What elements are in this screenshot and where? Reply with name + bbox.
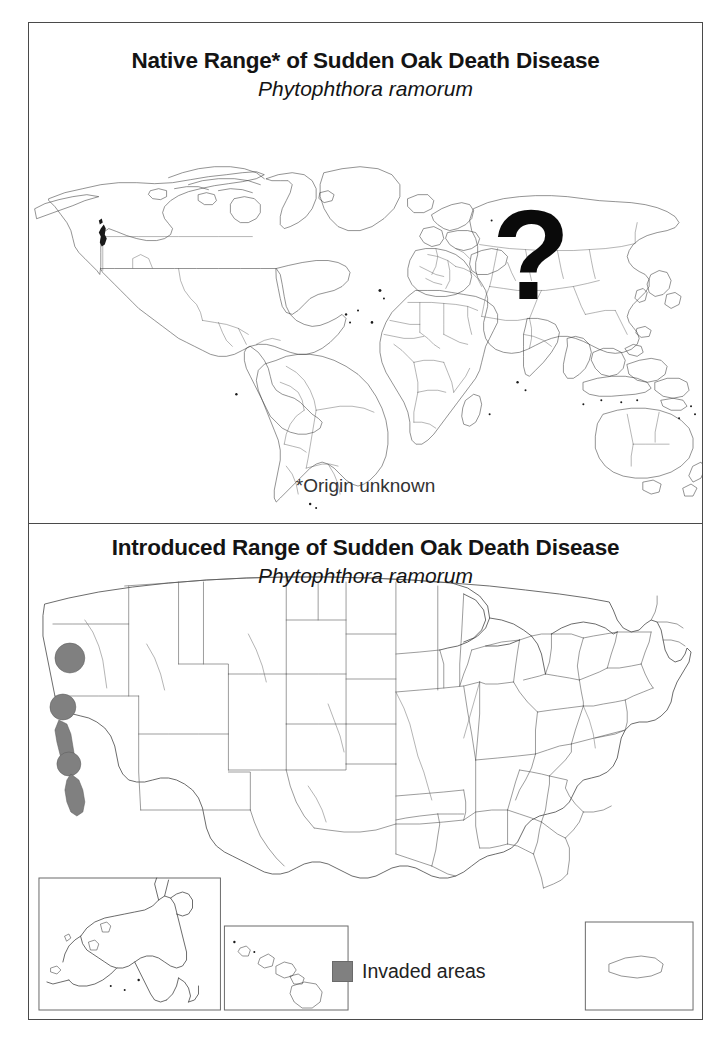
puerto-rico-inset xyxy=(585,922,693,1010)
invaded-area-markers xyxy=(50,643,85,816)
great-lakes-and-rivers xyxy=(85,583,617,822)
world-map-west-coast-mark xyxy=(99,219,107,247)
greenland-outline xyxy=(320,167,434,231)
panel-native-range: Native Range* of Sudden Oak Death Diseas… xyxy=(29,23,702,524)
invaded-marker-oregon xyxy=(55,643,85,673)
north-america-borders xyxy=(103,237,280,347)
north-america-outline xyxy=(35,172,350,434)
origin-unknown-footnote: *Origin unknown xyxy=(29,475,702,497)
native-range-title: Native Range* of Sudden Oak Death Diseas… xyxy=(29,49,702,74)
africa-borders xyxy=(384,302,478,428)
introduced-range-title: Introduced Range of Sudden Oak Death Dis… xyxy=(29,536,702,561)
alaska-inset xyxy=(39,878,220,1010)
invaded-areas-label: Invaded areas xyxy=(362,960,486,983)
introduced-range-species-name: Phytophthora ramorum xyxy=(29,564,702,588)
panel-introduced-range: Introduced Range of Sudden Oak Death Dis… xyxy=(29,524,702,1020)
invaded-areas-swatch xyxy=(332,961,353,982)
canada-arctic-detail xyxy=(149,167,334,229)
question-mark-annotation: ? xyxy=(492,191,570,319)
lower-48-outline xyxy=(43,577,691,878)
native-range-species-name: Phytophthora ramorum xyxy=(29,77,702,101)
africa-outline xyxy=(380,290,498,444)
native-range-titles: Native Range* of Sudden Oak Death Diseas… xyxy=(29,23,702,101)
figure-frame: Native Range* of Sudden Oak Death Diseas… xyxy=(28,22,703,1020)
invaded-marker-central-california xyxy=(57,752,81,776)
invaded-marker-big-sur xyxy=(65,774,85,816)
hawaii-inset xyxy=(224,926,348,1010)
map-legend: Invaded areas xyxy=(332,960,486,983)
state-boundaries xyxy=(53,577,685,888)
united-states-map xyxy=(29,524,702,1020)
introduced-range-titles: Introduced Range of Sudden Oak Death Dis… xyxy=(29,524,702,588)
invaded-marker-north-california xyxy=(50,694,76,720)
